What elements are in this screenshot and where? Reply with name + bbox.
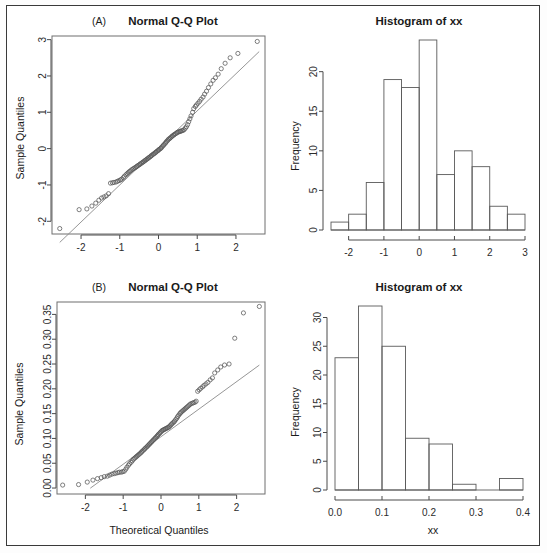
svg-text:0: 0 xyxy=(37,145,48,151)
svg-text:2: 2 xyxy=(233,242,239,253)
svg-text:10: 10 xyxy=(312,427,323,439)
svg-text:0.4: 0.4 xyxy=(516,507,530,518)
svg-text:20: 20 xyxy=(308,66,319,78)
svg-text:0: 0 xyxy=(156,242,162,253)
panel-a-hist-canvas: Histogram of xx Frequency 05101520-2-101… xyxy=(273,6,541,274)
svg-text:-2: -2 xyxy=(344,247,353,258)
panel-b-plot-area: 0.000.050.100.150.200.250.300.35-2-1012 xyxy=(42,302,265,513)
svg-text:2: 2 xyxy=(234,502,240,513)
panel-b-hist-plot-area: 0510152025300.00.10.20.30.4 xyxy=(312,306,531,518)
svg-text:0.0: 0.0 xyxy=(328,507,342,518)
svg-text:-2: -2 xyxy=(37,216,48,225)
svg-text:-1: -1 xyxy=(119,502,128,513)
svg-text:15: 15 xyxy=(312,398,323,410)
svg-text:0.35: 0.35 xyxy=(42,304,53,324)
svg-text:0: 0 xyxy=(416,247,422,258)
svg-text:-1: -1 xyxy=(115,242,124,253)
svg-text:3: 3 xyxy=(37,36,48,42)
panel-b-qq-canvas: (B) Normal Q-Q Plot Sample Quantiles The… xyxy=(7,272,275,544)
svg-text:-2: -2 xyxy=(81,502,90,513)
svg-text:1: 1 xyxy=(452,247,458,258)
panel-b-title: Normal Q-Q Plot xyxy=(128,281,218,293)
svg-text:0: 0 xyxy=(308,227,319,233)
svg-text:0.30: 0.30 xyxy=(42,329,53,349)
svg-text:15: 15 xyxy=(308,105,319,117)
panel-a-hist-title: Histogram of xx xyxy=(376,15,464,27)
panel-a-qq-plot: (A) Normal Q-Q Plot Sample Quantiles -2-… xyxy=(7,6,275,274)
svg-text:0.1: 0.1 xyxy=(375,507,389,518)
svg-text:0.3: 0.3 xyxy=(469,507,483,518)
svg-text:0: 0 xyxy=(312,487,323,493)
svg-text:1: 1 xyxy=(194,242,200,253)
svg-text:20: 20 xyxy=(312,369,323,381)
svg-text:1: 1 xyxy=(37,109,48,115)
svg-text:0.20: 0.20 xyxy=(42,379,53,399)
panel-a-qq-canvas: (A) Normal Q-Q Plot Sample Quantiles -2-… xyxy=(7,6,275,274)
panel-b-ylabel: Sample Quantiles xyxy=(13,363,25,446)
svg-text:5: 5 xyxy=(308,187,319,193)
svg-text:2: 2 xyxy=(487,247,493,258)
svg-text:1: 1 xyxy=(196,502,202,513)
panel-a-letter: (A) xyxy=(92,15,106,27)
panel-b-hist-ylabel: Frequency xyxy=(289,386,301,436)
svg-text:2: 2 xyxy=(37,73,48,79)
svg-text:3: 3 xyxy=(522,247,528,258)
svg-text:10: 10 xyxy=(308,145,319,157)
svg-text:0.25: 0.25 xyxy=(42,354,53,374)
svg-text:0.10: 0.10 xyxy=(42,428,53,448)
panel-b-hist-canvas: Histogram of xx Frequency xx 05101520253… xyxy=(273,272,541,544)
figure-border: (A) Normal Q-Q Plot Sample Quantiles -2-… xyxy=(6,5,540,546)
panel-b-qq-plot: (B) Normal Q-Q Plot Sample Quantiles The… xyxy=(7,272,275,544)
panel-a-hist-plot-area: 05101520-2-10123 xyxy=(308,40,529,258)
panel-a-plot-area: -2-10123-2-1012 xyxy=(37,36,265,253)
panel-b-hist-title: Histogram of xx xyxy=(376,281,464,293)
svg-text:0.2: 0.2 xyxy=(422,507,436,518)
svg-text:-2: -2 xyxy=(77,242,86,253)
svg-text:30: 30 xyxy=(312,312,323,324)
panel-b-hist-xlabel: xx xyxy=(428,524,439,536)
panel-a-title: Normal Q-Q Plot xyxy=(128,15,218,27)
panel-b-letter: (B) xyxy=(92,281,106,293)
svg-text:0.00: 0.00 xyxy=(42,478,53,498)
svg-text:5: 5 xyxy=(312,458,323,464)
panel-a-histogram: Histogram of xx Frequency 05101520-2-101… xyxy=(273,6,541,274)
panel-a-ylabel: Sample Quantiles xyxy=(14,97,26,180)
svg-text:-1: -1 xyxy=(379,247,388,258)
svg-text:-1: -1 xyxy=(37,180,48,189)
svg-text:0.15: 0.15 xyxy=(42,403,53,423)
panel-b-xlabel: Theoretical Quantiles xyxy=(109,524,208,536)
panel-b-histogram: Histogram of xx Frequency xx 05101520253… xyxy=(273,272,541,544)
svg-text:0.05: 0.05 xyxy=(42,453,53,473)
svg-text:0: 0 xyxy=(158,502,164,513)
figure-page: (A) Normal Q-Q Plot Sample Quantiles -2-… xyxy=(0,0,547,553)
svg-text:25: 25 xyxy=(312,340,323,352)
panel-a-hist-ylabel: Frequency xyxy=(289,120,301,170)
